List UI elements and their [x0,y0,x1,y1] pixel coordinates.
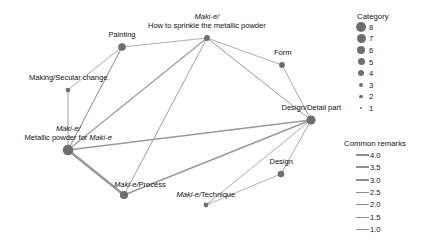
legend-remarks-line [356,154,369,157]
graph-edge [124,38,207,195]
graph-node-label: Making/Secular change [29,73,107,82]
legend-category-dot [357,34,366,43]
legend-category-label: 1 [369,104,373,113]
legend-category-label: 4 [369,69,373,78]
graph-edge [122,38,207,47]
graph-node-label: Maki-e/Metallic powder for Maki-e [25,124,112,142]
legend-remarks-label: 1.0 [370,225,381,234]
graph-node-label: Design/Detail part [282,103,341,112]
graph-node-label: Design [270,157,293,166]
graph-node-label: Maki-e/Process [114,180,166,189]
graph-node[interactable] [120,191,128,199]
legend-category-label: 6 [369,46,373,55]
graph-node[interactable] [118,43,126,51]
legend-remarks-line [356,192,369,193]
graph-node[interactable] [278,171,285,178]
legend-remarks-line [356,217,369,218]
graph-node-label: Form [274,48,292,57]
graph-node[interactable] [63,145,74,156]
legend-remarks-label: 2.5 [370,188,381,197]
legend-remarks-line [356,179,369,181]
graph-node-label: Painting [109,30,136,39]
legend-category-title: Category [357,12,389,21]
graph-node[interactable] [306,115,315,124]
legend-remarks-line [356,204,369,205]
graph-node[interactable] [66,88,71,93]
legend-remarks-label: 1.5 [370,213,381,222]
legend-category-label: 8 [369,23,373,32]
legend-category-dot [358,58,365,65]
graph-edge [207,38,282,65]
graph-node[interactable] [279,62,285,68]
graph-node[interactable] [204,35,210,41]
legend-category-label: 3 [369,81,373,90]
graph-node-label: Maki-e/Technique [177,190,236,199]
legend-category-label: 2 [369,92,373,101]
legend-category-label: 5 [369,58,373,67]
legend-remarks-label: 2.0 [370,200,381,209]
legend-remarks-label: 4.0 [370,151,381,160]
graph-node-label: Maki-e/How to sprinkle the metallic powd… [148,12,266,30]
legend-remarks-line [356,166,369,168]
legend-common-remarks-title: Common remarks [344,139,406,148]
node-layer [63,35,316,207]
graph-node[interactable] [204,203,209,208]
legend-remarks-label: 3.5 [370,163,381,172]
graph-edge [68,47,122,90]
legend-remarks-line [356,229,369,230]
legend-category-label: 7 [369,34,373,43]
edge-layer [68,38,311,205]
legend-remarks-label: 3.0 [370,176,381,185]
